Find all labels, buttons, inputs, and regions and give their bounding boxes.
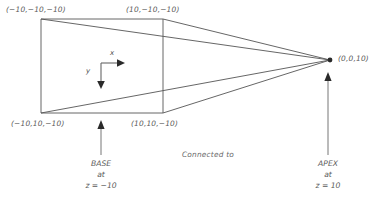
axis-indicator [97,59,125,89]
apex-annotation-line3: z = 10 [298,180,358,191]
base-annotation-line3: z = −10 [71,180,131,191]
coord-label-bottom-left: (−10,10,−10) [11,120,64,128]
coord-label-top-left: (−10,−10,−10) [6,6,66,14]
y-axis-label: y [86,68,90,75]
apex-point-marker [328,58,333,63]
coord-label-bottom-right: (10,10,−10) [131,120,178,128]
apex-arrow-head [324,72,331,81]
edge-bottomright-to-apex [163,60,330,113]
base-annotation-line2: at [71,169,131,180]
y-axis-arrowhead [97,81,105,89]
x-axis-arrowhead [117,59,125,67]
edge-topleft-to-apex [41,19,330,60]
apex-annotation: APEX at z = 10 [298,158,358,191]
apex-annotation-line2: at [298,169,358,180]
x-axis-label: x [110,50,114,57]
connected-to-label: Connected to [182,151,234,159]
coord-label-top-right: (10,−10,−10) [126,6,179,14]
lateral-edges [41,19,330,113]
base-annotation-line1: BASE [71,158,131,169]
apex-annotation-arrow [324,72,331,155]
base-rectangle [41,19,163,113]
coord-label-apex: (0,0,10) [338,55,369,63]
edge-bottomleft-to-apex [41,60,330,113]
base-annotation-arrow [97,120,104,155]
base-arrow-head [97,120,104,129]
base-annotation: BASE at z = −10 [71,158,131,191]
apex-annotation-line1: APEX [298,158,358,169]
diagram-canvas: (−10,−10,−10) (10,−10,−10) (−10,10,−10) … [0,0,374,202]
